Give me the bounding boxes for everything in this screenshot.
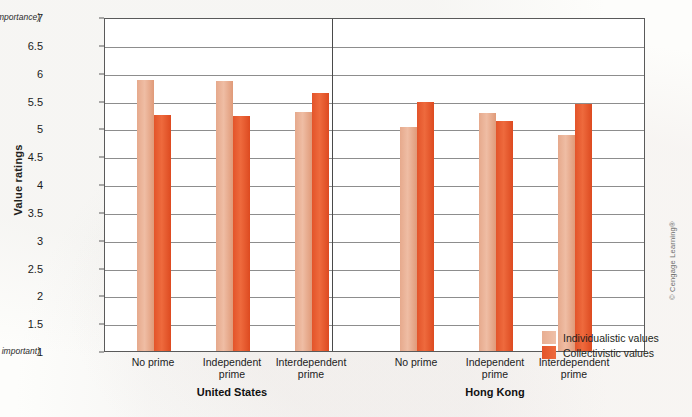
- chart-legend: Individualistic valuesCollectivistic val…: [542, 330, 659, 360]
- y-axis-tick-label: 6: [0, 68, 43, 80]
- group-label: United States: [132, 386, 332, 398]
- gridline: [105, 75, 644, 76]
- y-axis-tick-label: 6.5: [0, 40, 43, 52]
- legend-label: Individualistic values: [563, 332, 659, 344]
- bar-individualistic: [216, 81, 233, 351]
- legend-color-swatch: [542, 346, 556, 359]
- gridline: [105, 47, 644, 48]
- y-axis-tick-label: 2: [0, 290, 43, 302]
- y-axis-tick-label: 5: [0, 123, 43, 135]
- bar-individualistic: [479, 113, 496, 351]
- y-axis-tick-label: 7: [0, 12, 43, 24]
- gridline: [105, 130, 644, 131]
- bar-collectivistic: [312, 93, 329, 351]
- x-axis-label-line: prime: [255, 368, 367, 380]
- y-axis-tick-label: 5.5: [0, 96, 43, 108]
- x-axis-label-line: Interdependent: [255, 356, 367, 368]
- y-axis-tick-label: 4.5: [0, 151, 43, 163]
- bar-collectivistic: [154, 115, 171, 351]
- y-axis-tick-label: 1: [0, 346, 43, 358]
- bar-collectivistic: [496, 121, 513, 351]
- legend-item: Collectivistic values: [542, 345, 659, 360]
- bar-collectivistic: [417, 102, 434, 351]
- bar-individualistic: [137, 80, 154, 351]
- bar-collectivistic: [233, 116, 250, 351]
- y-axis-tick-label: 3: [0, 235, 43, 247]
- bar-individualistic: [558, 135, 575, 351]
- plot-area: [104, 18, 645, 352]
- bar-individualistic: [400, 127, 417, 351]
- gridline: [105, 103, 644, 104]
- copyright-notice: © Cengage Learning®: [668, 221, 677, 300]
- y-axis-tick-label: 2.5: [0, 263, 43, 275]
- x-axis-category-label: Interdependentprime: [255, 356, 367, 380]
- group-divider: [332, 19, 333, 351]
- y-axis-tick-label: 1.5: [0, 318, 43, 330]
- x-axis-label-line: prime: [518, 368, 630, 380]
- bar-collectivistic: [575, 104, 592, 351]
- y-axis-tick-label: 3.5: [0, 207, 43, 219]
- legend-color-swatch: [542, 331, 556, 344]
- legend-label: Collectivistic values: [563, 347, 654, 359]
- bar-individualistic: [295, 112, 312, 351]
- legend-item: Individualistic values: [542, 330, 659, 345]
- y-axis-tick-label: 4: [0, 179, 43, 191]
- group-label: Hong Kong: [395, 386, 595, 398]
